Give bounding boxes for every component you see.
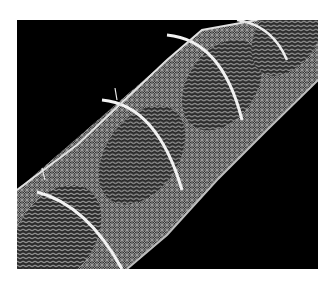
micrograph-image (17, 20, 318, 269)
segmented-structure-illustration (17, 20, 318, 269)
